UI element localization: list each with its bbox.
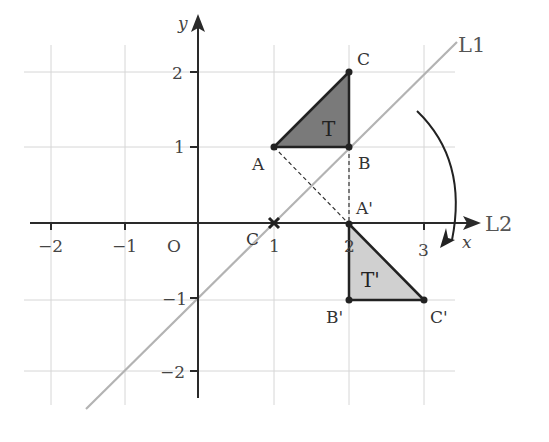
x-tick-1: 1 <box>269 236 280 256</box>
center-label: C <box>246 229 259 249</box>
grid <box>24 45 455 405</box>
triangle-t <box>274 72 349 147</box>
vertex-label-c-prime: C' <box>430 307 448 327</box>
vertex-label-c: C <box>357 49 370 69</box>
y-tick-neg2: −2 <box>160 362 185 382</box>
line-l1-label: L1 <box>458 33 485 57</box>
vertex-label-a: A <box>251 154 265 174</box>
triangle-t-prime-label: T' <box>361 268 380 292</box>
vertex-label-a-prime: A' <box>355 198 373 218</box>
y-tick-1: 1 <box>174 137 185 157</box>
x-tick-2: 2 <box>344 236 355 256</box>
axes <box>30 22 470 398</box>
x-tick-neg1: −1 <box>112 236 137 256</box>
geometry-diagram: y x O −2 −1 1 2 3 2 1 −1 −2 L1 L2 C A B … <box>0 0 549 442</box>
x-tick-3: 3 <box>418 240 429 260</box>
x-tick-neg2: −2 <box>38 236 63 256</box>
rotation-arc-arrow <box>417 111 456 240</box>
line-l2-label: L2 <box>485 212 512 236</box>
y-tick-neg1: −1 <box>162 289 187 309</box>
y-axis-label: y <box>177 13 188 33</box>
x-axis-label: x <box>462 232 472 252</box>
vertex-label-b: B <box>358 153 371 173</box>
y-tick-2: 2 <box>172 63 183 83</box>
triangle-t-label: T <box>322 117 336 141</box>
origin-label: O <box>167 236 181 256</box>
vertex-label-b-prime: B' <box>326 307 343 327</box>
